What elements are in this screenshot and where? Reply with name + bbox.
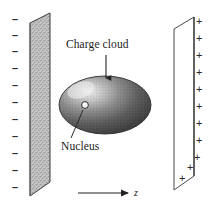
nucleus-highlight <box>83 103 85 105</box>
nucleus-dot <box>82 102 89 109</box>
minus-sign: – <box>12 30 18 41</box>
charge-cloud-ellipse <box>59 76 151 134</box>
plus-sign: + <box>196 67 202 78</box>
plus-sign: + <box>194 152 200 163</box>
plus-sign: + <box>196 50 202 61</box>
plus-sign: + <box>196 84 202 95</box>
minus-sign: – <box>12 80 18 91</box>
plus-sign: + <box>196 135 202 146</box>
minus-sign: – <box>12 165 18 176</box>
plus-sign: + <box>196 118 202 129</box>
nucleus-label: Nucleus <box>61 141 99 153</box>
physics-diagram-charge-cloud: – – – – – – – – – – – + + + + + + + + + … <box>0 0 210 213</box>
minus-sign: – <box>12 148 18 159</box>
plus-sign: + <box>196 16 202 27</box>
plus-sign: + <box>187 162 193 173</box>
minus-sign: – <box>12 14 18 25</box>
negative-plate <box>30 13 50 196</box>
z-axis-label: z <box>134 188 138 198</box>
minus-sign: – <box>12 97 18 108</box>
minus-sign: – <box>12 114 18 125</box>
minus-sign: – <box>12 131 18 142</box>
nucleus-circle <box>82 102 89 109</box>
minus-sign: – <box>12 182 18 193</box>
plus-sign: + <box>196 101 202 112</box>
negative-plate-face <box>30 13 50 196</box>
plus-sign: + <box>196 33 202 44</box>
minus-sign: – <box>12 46 18 57</box>
minus-sign: – <box>12 63 18 74</box>
charge-cloud-label: Charge cloud <box>66 39 129 51</box>
plus-sign: + <box>179 173 185 184</box>
